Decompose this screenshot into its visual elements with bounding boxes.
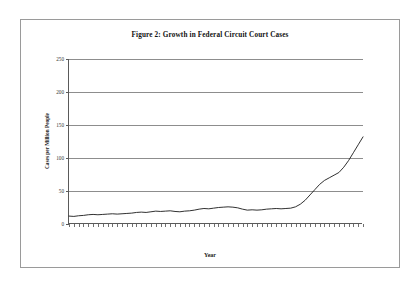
- x-tick-mark: [262, 224, 263, 227]
- x-tick-mark: [218, 224, 219, 227]
- x-tick-mark: [300, 224, 301, 227]
- x-tick-mark: [199, 224, 200, 227]
- x-tick-mark: [363, 224, 364, 227]
- x-tick-mark: [310, 224, 311, 227]
- x-tick-mark: [228, 224, 229, 227]
- x-tick-mark: [98, 224, 99, 227]
- chart-title: Figure 2: Growth in Federal Circuit Cour…: [0, 31, 420, 39]
- x-tick-mark: [267, 224, 268, 227]
- x-tick-mark: [132, 224, 133, 227]
- x-tick-mark: [141, 224, 142, 227]
- x-tick-mark: [108, 224, 109, 227]
- x-tick-mark: [88, 224, 89, 227]
- x-tick-mark: [204, 224, 205, 227]
- x-tick-mark: [296, 224, 297, 227]
- x-tick-mark: [83, 224, 84, 227]
- series-line-chart: [69, 59, 363, 224]
- x-tick-mark: [291, 224, 292, 227]
- x-tick-mark: [112, 224, 113, 227]
- x-tick-mark: [180, 224, 181, 227]
- x-tick-mark: [238, 224, 239, 227]
- x-tick-mark: [175, 224, 176, 227]
- plot-area: 050100150200250 194119451949195319571961…: [68, 59, 362, 224]
- x-tick-mark: [127, 224, 128, 227]
- y-tick-label: 200: [42, 89, 64, 95]
- x-tick-mark: [344, 224, 345, 227]
- x-tick-mark: [189, 224, 190, 227]
- x-tick-mark: [243, 224, 244, 227]
- x-tick-mark: [117, 224, 118, 227]
- x-tick-mark: [74, 224, 75, 227]
- x-tick-mark: [276, 224, 277, 227]
- x-tick-mark: [136, 224, 137, 227]
- x-tick-mark: [334, 224, 335, 227]
- x-tick-mark: [194, 224, 195, 227]
- x-tick-mark: [252, 224, 253, 227]
- x-tick-mark: [170, 224, 171, 227]
- x-tick-mark: [103, 224, 104, 227]
- x-tick-mark: [233, 224, 234, 227]
- x-tick-mark: [324, 224, 325, 227]
- x-tick-mark: [339, 224, 340, 227]
- y-tick-label: 150: [42, 122, 64, 128]
- x-tick-mark: [161, 224, 162, 227]
- x-tick-mark: [305, 224, 306, 227]
- x-tick-mark: [353, 224, 354, 227]
- x-tick-mark: [151, 224, 152, 227]
- chart-page: Figure 2: Growth in Federal Circuit Cour…: [0, 0, 420, 286]
- x-axis-label: Year: [0, 252, 420, 258]
- series-line-path: [69, 137, 363, 217]
- x-tick-mark: [214, 224, 215, 227]
- y-tick-label: 250: [42, 56, 64, 62]
- x-tick-mark: [165, 224, 166, 227]
- x-tick-mark: [247, 224, 248, 227]
- x-tick-mark: [156, 224, 157, 227]
- x-tick-mark: [69, 224, 70, 227]
- x-tick-mark: [146, 224, 147, 227]
- y-tick-label: 50: [42, 188, 64, 194]
- x-tick-mark: [79, 224, 80, 227]
- x-tick-mark: [271, 224, 272, 227]
- x-tick-mark: [320, 224, 321, 227]
- y-tick-label: 0: [42, 221, 64, 227]
- x-tick-mark: [349, 224, 350, 227]
- x-tick-mark: [329, 224, 330, 227]
- x-tick-mark: [185, 224, 186, 227]
- x-tick-mark: [122, 224, 123, 227]
- x-tick-mark: [93, 224, 94, 227]
- x-tick-mark: [257, 224, 258, 227]
- x-tick-mark: [286, 224, 287, 227]
- x-tick-mark: [358, 224, 359, 227]
- x-tick-mark: [223, 224, 224, 227]
- x-tick-mark: [209, 224, 210, 227]
- x-tick-mark: [315, 224, 316, 227]
- y-tick-label: 100: [42, 155, 64, 161]
- x-tick-mark: [281, 224, 282, 227]
